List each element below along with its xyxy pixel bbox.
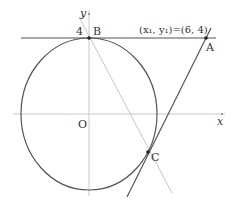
y-axis-label: y bbox=[79, 7, 87, 20]
point-b-label: B bbox=[93, 25, 101, 38]
diagram-canvas: y x O 4 B A C (x₁, y₁)=(6, 4) bbox=[0, 0, 238, 204]
x-axis-label: x bbox=[217, 115, 224, 128]
origin-label: O bbox=[78, 118, 87, 131]
line-bc bbox=[79, 17, 172, 193]
point-a-label: A bbox=[205, 41, 215, 54]
y-axis-arrow-dot bbox=[88, 13, 90, 15]
point-b bbox=[87, 36, 91, 40]
point-a-annotation: (x₁, y₁)=(6, 4) bbox=[139, 24, 208, 35]
tangent-line-ac bbox=[127, 28, 211, 197]
point-c bbox=[146, 150, 150, 154]
tick-4-label: 4 bbox=[76, 25, 83, 38]
point-c-label: C bbox=[151, 151, 159, 164]
point-a bbox=[204, 36, 208, 40]
